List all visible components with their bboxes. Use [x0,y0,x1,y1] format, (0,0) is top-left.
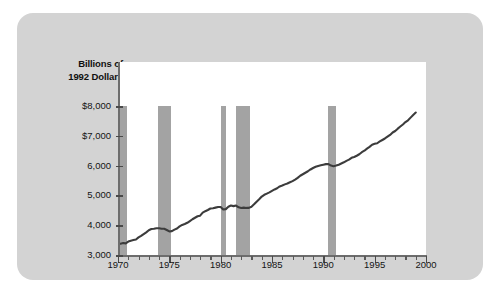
y-tick-mark [116,225,123,227]
y-tick-label: 6,000 [53,160,111,171]
x-tick-minor [190,256,191,260]
x-tick-label: 1985 [252,259,292,270]
x-tick-minor [344,256,345,260]
x-tick-label: 1990 [303,259,343,270]
y-tick-mark [116,106,123,108]
y-tick-label: 4,000 [53,219,111,230]
x-tick-minor [241,256,242,260]
y-tick-mark [116,166,123,168]
y-axis-title-line1: Billions of [55,57,123,70]
data-line [118,113,416,244]
y-axis-line [118,62,120,256]
y-axis-title-line2: 1992 Dollars [55,70,123,83]
x-tick-minor [293,256,294,260]
x-tick-label: 1975 [149,259,189,270]
x-tick-label: 1980 [201,259,241,270]
data-series-layer [118,62,426,255]
x-tick-label: 2000 [406,259,446,270]
y-tick-label: $7,000 [53,130,111,141]
y-tick-mark [116,136,123,138]
x-tick-minor [395,256,396,260]
y-tick-mark [116,195,123,197]
figure-card: Billions of 1992 Dollars $8,000$7,0006,0… [17,13,483,280]
x-tick-label: 1970 [98,259,138,270]
y-tick-label: $8,000 [53,100,111,111]
y-axis-title: Billions of 1992 Dollars [55,57,123,83]
x-tick-label: 1995 [355,259,395,270]
x-tick-minor [139,256,140,260]
y-tick-label: 5,000 [53,189,111,200]
